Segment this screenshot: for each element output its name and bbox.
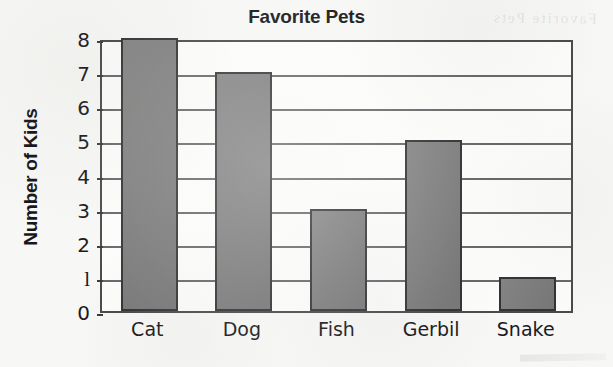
- y-axis-tick-label: 5: [58, 132, 90, 152]
- plot-inner: [102, 42, 571, 311]
- bar-fish: [310, 209, 367, 311]
- y-axis-tick-label: 7: [58, 64, 90, 84]
- scanned-chart-page: Favorite Pets Favorite Pets Number of Ki…: [0, 0, 613, 367]
- y-axis-tick-label: l: [58, 268, 90, 289]
- bar-cat: [121, 38, 178, 311]
- y-axis-tick-mark: [97, 143, 103, 145]
- y-axis-title-label: Number of Kids: [20, 108, 42, 245]
- x-axis-tick-label-gerbil: Gerbil: [403, 318, 460, 340]
- y-axis-tick-mark: [97, 246, 103, 248]
- plot-area: [100, 40, 573, 313]
- x-axis-tick-label-cat: Cat: [131, 318, 163, 340]
- bar-snake: [499, 277, 556, 311]
- y-axis-title: Number of Kids: [18, 40, 44, 313]
- bar-gerbil: [405, 140, 462, 311]
- y-axis-tick-label-group: 0l2345678: [58, 40, 94, 313]
- y-axis-tick-mark: [97, 178, 103, 180]
- y-axis-tick-label: 0: [58, 303, 90, 323]
- y-axis-tick-mark: [97, 212, 103, 214]
- bleed-through-smudge-artifact: [520, 353, 606, 362]
- y-axis-tick-mark: [97, 75, 103, 77]
- bar-dog: [215, 72, 272, 311]
- y-axis-tick-label: 6: [58, 98, 90, 118]
- x-axis-tick-label-group: CatDogFishGerbilSnake: [100, 318, 573, 352]
- y-axis-tick-label: 8: [58, 30, 90, 50]
- y-axis-tick-mark: [97, 41, 103, 43]
- x-axis-tick-label-fish: Fish: [318, 318, 355, 340]
- y-axis-tick-mark: [97, 314, 103, 316]
- y-axis-tick-mark: [97, 109, 103, 111]
- y-axis-tick-label: 4: [58, 167, 90, 187]
- y-axis-tick-mark: [97, 280, 103, 282]
- y-axis-tick-label: 2: [58, 235, 90, 255]
- x-axis-tick-label-snake: Snake: [497, 318, 555, 340]
- y-axis-tick-label: 3: [58, 201, 90, 221]
- x-axis-tick-label-dog: Dog: [223, 318, 261, 340]
- chart-title: Favorite Pets: [0, 6, 613, 28]
